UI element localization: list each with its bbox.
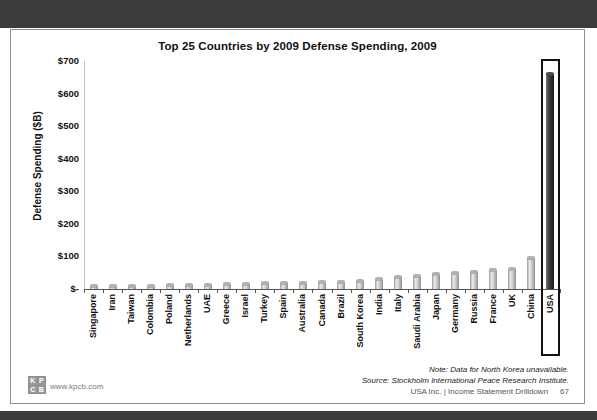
bar-canada [318, 282, 326, 289]
bar-turkey [261, 283, 269, 289]
logo-letter-p: P [38, 377, 46, 385]
x-axis-tick [427, 289, 428, 293]
y-axis-line [84, 61, 85, 289]
y-axis-tick-label: $700 [34, 55, 79, 66]
x-axis-label-france: France [488, 294, 499, 324]
bar-taiwan [128, 286, 136, 289]
x-axis-tick [484, 289, 485, 293]
logo-url-text: www.kpcb.com [50, 382, 103, 391]
x-axis-label-uae: UAE [202, 294, 213, 313]
x-axis-tick [560, 289, 561, 293]
x-axis-label-india: India [374, 294, 385, 315]
x-axis-tick [103, 289, 104, 293]
bar-south-korea [356, 281, 364, 289]
x-axis-tick [408, 289, 409, 293]
bar-greece [223, 284, 231, 289]
x-axis-label-netherlands: Netherlands [183, 294, 194, 346]
y-axis-tick-label: $600 [34, 88, 79, 99]
x-axis-tick [255, 289, 256, 293]
x-axis-tick [198, 289, 199, 293]
bar-india [375, 279, 383, 289]
screenshot-root: Top 25 Countries by 2009 Defense Spendin… [0, 0, 597, 420]
x-axis-tick [312, 289, 313, 293]
x-axis-label-germany: Germany [450, 294, 461, 333]
bar-singapore [90, 286, 98, 289]
top-banner-band [0, 0, 597, 28]
x-axis-label-iran: Iran [107, 294, 118, 311]
x-axis-label-saudi-arabia: Saudi Arabia [412, 294, 423, 349]
y-axis-tick-label: $500 [34, 120, 79, 131]
bar-russia [470, 272, 478, 289]
x-axis-tick [236, 289, 237, 293]
x-axis-label-greece: Greece [221, 294, 232, 325]
chart-area: $-$100$200$300$400$500$600$700SingaporeI… [11, 30, 586, 405]
bar-spain [280, 283, 288, 289]
bar-france [489, 270, 497, 289]
x-axis-label-china: China [526, 294, 537, 319]
y-axis-tick-label: $400 [34, 153, 79, 164]
note-line-1: Note: Data for North Korea unavailable. [362, 365, 569, 376]
x-axis-tick [332, 289, 333, 293]
logo-letter-c: C [29, 386, 37, 394]
x-axis-tick [160, 289, 161, 293]
kpcb-logo: K P C B [28, 376, 46, 394]
bar-uk [508, 269, 516, 289]
brand-line: USA Inc. | Income Statement Drilldown [410, 387, 548, 398]
bar-italy [394, 277, 402, 289]
y-axis-tick-label: $100 [34, 250, 79, 261]
x-axis-label-taiwan: Taiwan [126, 294, 137, 324]
x-axis-label-spain: Spain [278, 294, 289, 319]
x-axis-tick [217, 289, 218, 293]
x-axis-tick [389, 289, 390, 293]
x-axis-label-italy: Italy [393, 294, 404, 312]
slide: Top 25 Countries by 2009 Defense Spendin… [10, 29, 585, 404]
bar-brazil [337, 282, 345, 289]
bottom-banner-band [0, 411, 597, 420]
page-number: 67 [560, 387, 569, 398]
logo-letter-k: K [29, 377, 37, 385]
y-axis-tick-label: $300 [34, 185, 79, 196]
x-axis-label-australia: Australia [297, 294, 308, 333]
y-axis-tick-label: $- [34, 283, 79, 294]
bar-japan [432, 274, 440, 289]
x-axis-label-japan: Japan [431, 294, 442, 320]
x-axis-tick [141, 289, 142, 293]
x-axis-tick [370, 289, 371, 293]
bar-israel [242, 284, 250, 289]
x-axis-tick [465, 289, 466, 293]
x-axis-label-usa: USA [545, 294, 556, 313]
x-axis-tick [179, 289, 180, 293]
bar-poland [166, 285, 174, 289]
x-axis-line [84, 289, 560, 290]
x-axis-tick [293, 289, 294, 293]
x-axis-tick [503, 289, 504, 293]
bar-uae [204, 285, 212, 289]
x-axis-label-singapore: Singapore [88, 294, 99, 338]
x-axis-tick [446, 289, 447, 293]
bar-china [527, 258, 535, 289]
x-axis-label-israel: Israel [240, 294, 251, 318]
bar-colombia [147, 286, 155, 289]
bar-iran [109, 286, 117, 289]
bar-netherlands [185, 285, 193, 289]
x-axis-tick [522, 289, 523, 293]
x-axis-label-turkey: Turkey [259, 294, 270, 323]
x-axis-label-uk: UK [507, 294, 518, 307]
x-axis-label-south-korea: South Korea [355, 294, 366, 348]
x-axis-tick [84, 289, 85, 293]
x-axis-tick [274, 289, 275, 293]
x-axis-tick [122, 289, 123, 293]
logo-letter-b: B [38, 386, 46, 394]
footer-notes: Note: Data for North Korea unavailable. … [362, 365, 569, 398]
bar-saudi-arabia [413, 276, 421, 289]
x-axis-label-russia: Russia [469, 294, 480, 324]
x-axis-label-colombia: Colombia [145, 294, 156, 335]
x-axis-label-canada: Canada [317, 294, 328, 327]
bar-australia [299, 283, 307, 289]
x-axis-label-poland: Poland [164, 294, 175, 324]
bar-germany [451, 273, 459, 289]
y-axis-tick-label: $200 [34, 218, 79, 229]
x-axis-tick [351, 289, 352, 293]
brand-row: USA Inc. | Income Statement Drilldown 67 [362, 387, 569, 398]
note-line-2: Source: Stockholm International Peace Re… [362, 376, 569, 387]
